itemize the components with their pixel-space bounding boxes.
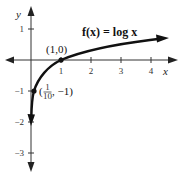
y-tick-label: 1 xyxy=(20,24,25,34)
point-1-0 xyxy=(58,57,63,62)
x-tick-label: 4 xyxy=(149,66,154,76)
y-axis-up-arrow-icon xyxy=(28,6,35,16)
y-tick-label: −1 xyxy=(14,86,24,96)
x-axis-label: x xyxy=(162,65,168,77)
y-tick-label: −2 xyxy=(14,117,24,127)
x-axis-right-arrow-icon xyxy=(168,57,178,64)
point-label-1-0: (1,0) xyxy=(46,43,67,56)
x-axis-left-arrow-icon xyxy=(5,57,14,64)
x-tick-label: 1 xyxy=(59,66,64,76)
y-axis-down-arrow-icon xyxy=(28,162,35,172)
curve-arrow-down-icon xyxy=(28,114,36,126)
point-label-tenth-neg1: ( 1 10 , −1) xyxy=(39,82,73,101)
y-axis-label: y xyxy=(15,8,21,20)
y-tick-label: −3 xyxy=(14,148,24,158)
x-tick-label: 2 xyxy=(89,66,94,76)
curve-arrow-right-icon xyxy=(156,35,169,43)
point-y-value: , −1) xyxy=(52,85,73,98)
function-label: f(x) = log x xyxy=(82,25,137,39)
point-tenth-neg1 xyxy=(31,88,36,93)
x-tick-label: 3 xyxy=(119,66,124,76)
log-function-graph: 1 2 3 4 x 1 −1 −2 −3 y (1,0) f(x) = log … xyxy=(0,0,182,177)
